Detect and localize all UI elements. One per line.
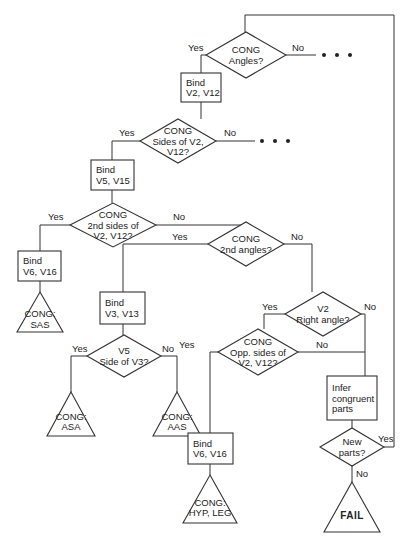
edge-label-no: No — [356, 468, 368, 479]
node-label: CONG — [232, 44, 261, 55]
connector: No — [156, 211, 246, 225]
node-label: Side of V3? — [99, 356, 148, 367]
flowchart-canvas: YesNoYesNoYesNoYesNoYesNoYesNoNoYesYesNo… — [0, 0, 411, 544]
connector: No — [298, 339, 365, 352]
terminal-node-t-hyp-leg: CONG:HYP, LEG — [183, 475, 237, 523]
edge-label-yes: Yes — [262, 301, 278, 312]
node-label: V2, V12 — [186, 87, 220, 98]
node-label: V5 — [118, 345, 130, 356]
ellipsis-dot — [286, 139, 290, 143]
node-label: CONG: — [55, 411, 86, 422]
node-label: New — [342, 436, 361, 447]
node-label: ASA — [61, 421, 81, 432]
connector: Yes — [123, 231, 208, 292]
connector: No — [161, 343, 177, 392]
connector: No — [352, 466, 368, 482]
edge-label-no: No — [173, 211, 185, 222]
connector: Yes — [188, 42, 206, 73]
connector-line — [284, 244, 312, 292]
node-label: SAS — [30, 319, 49, 330]
ellipsis-continuation — [322, 53, 352, 57]
node-label: V6, V16 — [23, 266, 57, 277]
edge-label-no: No — [364, 301, 376, 312]
node-label: Bind — [186, 77, 205, 88]
edge-label-yes: Yes — [188, 42, 204, 53]
node-label: parts — [332, 403, 353, 414]
node-label: 2nd angles? — [220, 244, 272, 255]
node-label: parts? — [339, 447, 365, 458]
edge-label-yes: Yes — [119, 127, 135, 138]
terminal-node-t-aas: CONG:AAS — [153, 392, 201, 436]
process-node-p-bind-v5: BindV5, V15 — [91, 160, 134, 190]
decision-node-d-2nd-sides: CONG2nd sides ofV2, V12? — [70, 203, 156, 247]
connector-line — [201, 55, 206, 73]
edge-label-no: No — [162, 343, 174, 354]
edge-label-yes: Yes — [72, 343, 88, 354]
node-label: V3, V13 — [105, 308, 139, 319]
connector: Yes — [262, 301, 285, 329]
connector-line — [71, 356, 87, 392]
process-node-p-bind-v2: BindV2, V12 — [181, 73, 221, 102]
node-label: V5, V15 — [96, 175, 130, 186]
connector-line — [123, 244, 208, 292]
node-label: Right angle? — [296, 314, 349, 325]
node-label: CONG — [99, 209, 128, 220]
ellipsis-dot — [260, 139, 264, 143]
connector-line — [161, 356, 177, 392]
node-label: CONG — [232, 233, 261, 244]
node-label: congruent — [332, 393, 375, 404]
node-label: HYP, LEG — [189, 507, 232, 518]
ellipsis-dot — [273, 139, 277, 143]
node-label: CONG: — [24, 308, 55, 319]
ellipsis-dot — [322, 53, 326, 57]
node-label: CONG — [244, 336, 273, 347]
connector: No — [286, 42, 316, 55]
decision-node-d-angles: CONGAngles? — [206, 32, 286, 78]
process-node-p-bind-v6b: BindV6, V16 — [188, 433, 233, 464]
connector-line — [361, 314, 365, 376]
continuation-ellipses — [260, 53, 352, 143]
node-label: V2, V12? — [238, 357, 277, 368]
connector: No — [216, 127, 255, 141]
connector: No — [361, 301, 376, 376]
decision-node-d-2nd-angles: CONG2nd angles? — [208, 222, 284, 266]
node-label: FAIL — [340, 510, 364, 521]
ellipsis-dot — [335, 53, 339, 57]
node-label: 2nd sides of — [87, 220, 139, 231]
node-label: V12? — [167, 146, 189, 157]
edge-label-yes: Yes — [378, 433, 394, 444]
node-label: CONG: — [194, 497, 225, 508]
node-label: CONG — [164, 125, 193, 136]
connector: No — [284, 231, 312, 292]
node-label: Bind — [96, 164, 115, 175]
connector-line — [264, 314, 285, 329]
decision-node-d-right-angle: V2Right angle? — [285, 292, 361, 336]
edge-label-yes: Yes — [179, 339, 195, 350]
terminal-node-t-asa: CONG:ASA — [47, 392, 95, 436]
terminal-node-t-sas: CONG:SAS — [17, 292, 63, 332]
connector-line — [210, 352, 218, 433]
decision-node-d-sides: CONGSides of V2,V12? — [140, 119, 216, 163]
node-label: Infer — [332, 382, 351, 393]
node-label: V6, V16 — [193, 448, 227, 459]
decision-node-d-new-parts: Newparts? — [320, 428, 384, 466]
node-label: Bind — [105, 297, 124, 308]
edge-label-no: No — [291, 231, 303, 242]
decision-node-d-opp-sides: CONGOpp. sides ofV2, V12? — [218, 329, 298, 375]
process-node-p-bind-v3: BindV3, V13 — [100, 292, 145, 324]
ellipsis-dot — [348, 53, 352, 57]
node-label: Opp. sides of — [230, 347, 286, 358]
node-label: V2, V12? — [93, 230, 132, 241]
edge-label-no: No — [316, 339, 328, 350]
node-label: CONG: — [161, 411, 192, 422]
edge-label-yes: Yes — [48, 211, 64, 222]
node-label: AAS — [167, 421, 186, 432]
node-label: Bind — [23, 255, 42, 266]
terminal-node-t-fail: FAIL — [324, 482, 380, 532]
connector: Yes — [40, 211, 70, 251]
decision-node-d-v5-side: V5Side of V3? — [87, 335, 161, 377]
connector-line — [156, 222, 246, 225]
connector-line — [40, 225, 70, 251]
connector: Yes — [112, 127, 140, 160]
node-label: V2 — [317, 303, 329, 314]
